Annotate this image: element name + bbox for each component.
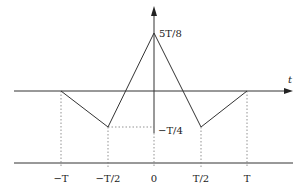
tick-T-half: T/2 (193, 173, 209, 184)
min-label: −T/4 (158, 125, 183, 136)
y-axis-arrow-icon (151, 6, 157, 16)
peak-label: 5T/8 (159, 28, 182, 39)
tick-neg-T-half: −T/2 (96, 173, 121, 184)
figure: t 5T/8 −T/4 −T −T/2 0 T/2 T (0, 0, 307, 193)
tick-zero: 0 (151, 173, 157, 184)
t-axis-arrow-icon (284, 88, 293, 94)
tick-neg-T: −T (53, 173, 68, 184)
tick-T: T (244, 173, 251, 184)
t-axis-label: t (288, 74, 293, 85)
waveform-plot: t 5T/8 −T/4 −T −T/2 0 T/2 T (0, 0, 307, 193)
